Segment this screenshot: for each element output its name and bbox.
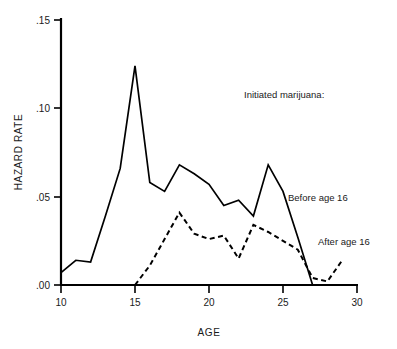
series-label-after-age-16: After age 16 — [318, 236, 370, 247]
chart-figure: .15 .10 .05 .00 10 15 20 25 30 AGE HAZAR… — [0, 0, 397, 349]
y-tick-label-005: .05 — [36, 192, 50, 203]
x-tick-label-15: 15 — [129, 297, 141, 308]
y-tick-label-010: .10 — [36, 103, 50, 114]
x-tick-label-10: 10 — [55, 297, 67, 308]
x-tick-label-30: 30 — [351, 297, 363, 308]
hazard-rate-line-chart: .15 .10 .05 .00 10 15 20 25 30 AGE HAZAR… — [0, 0, 397, 349]
series-label-before-age-16: Before age 16 — [288, 192, 348, 203]
legend-header-label: Initiated marijuana: — [244, 89, 324, 100]
y-axis-title: HAZARD RATE — [13, 114, 24, 190]
x-tick-label-20: 20 — [203, 297, 215, 308]
y-tick-label-000: .00 — [36, 280, 50, 291]
x-axis-title: AGE — [198, 327, 221, 338]
y-tick-label-015: .15 — [36, 15, 50, 26]
series-line-after-age-16 — [135, 213, 342, 285]
x-tick-label-25: 25 — [277, 297, 289, 308]
x-axis-ticks — [61, 285, 357, 293]
